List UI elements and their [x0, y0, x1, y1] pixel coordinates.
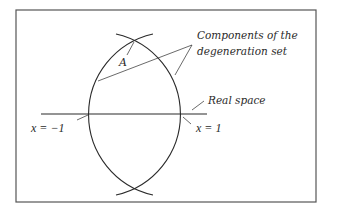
components-label-line2: degeneration set [197, 45, 288, 57]
point-a-label: A [118, 56, 127, 69]
components-leader-left [98, 45, 192, 81]
x-neg-label: x = −1 [30, 121, 65, 135]
x-pos-label: x = 1 [195, 121, 221, 135]
x-neg-leader [77, 115, 88, 120]
components-label-line1: Components of the [197, 29, 298, 41]
components-leader-right [175, 45, 192, 75]
degeneration-set-diagram: A Components of the degeneration set Rea… [0, 0, 337, 210]
x-pos-leader [183, 117, 191, 124]
real-space-leader [192, 101, 204, 110]
real-space-label: Real space [207, 94, 266, 106]
